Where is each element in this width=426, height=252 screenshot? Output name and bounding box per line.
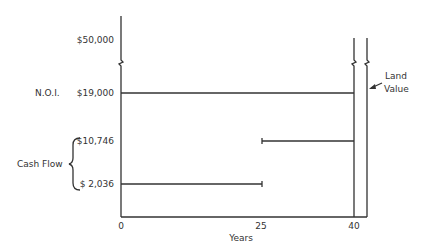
x-axis-label: Years [228, 233, 253, 243]
x-tick-40: 40 [348, 221, 360, 231]
y-label-50000: $50,000 [77, 35, 114, 45]
y-label-cf-low: $ 2,036 [80, 179, 115, 189]
y-axis [119, 16, 123, 217]
y-label-noi-prefix: N.O.I. [35, 88, 60, 98]
value-label: Value [384, 84, 409, 94]
year-40-line [352, 38, 356, 217]
x-tick-0: 0 [118, 221, 124, 231]
land-value-arrow-head [369, 84, 376, 89]
y-label-noi: $19,000 [77, 88, 114, 98]
x-tick-25: 25 [255, 221, 266, 231]
cash-flow-diagram: $50,000 N.O.I. $19,000 $10,746 $ 2,036 C… [0, 0, 426, 252]
land-value-line [365, 38, 369, 217]
land-label: Land [385, 71, 407, 81]
cash-flow-label: Cash Flow [17, 159, 63, 169]
y-label-cf-high: $10,746 [77, 136, 114, 146]
